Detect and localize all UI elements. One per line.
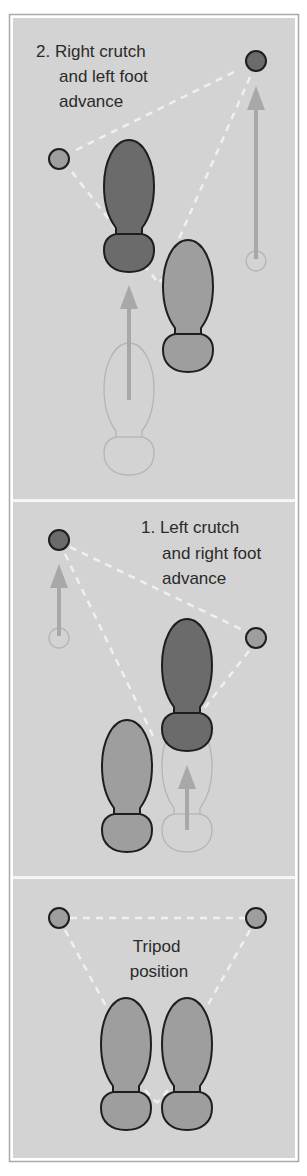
- panel-step-1: 1. Left crutch and right foot advance: [13, 502, 295, 876]
- crutch-gait-diagram: 2. Right crutch and left foot advance: [0, 0, 307, 1176]
- panel-step-2: 2. Right crutch and left foot advance: [13, 18, 295, 499]
- panel-divider: [13, 876, 295, 879]
- right-crutch: [246, 908, 266, 928]
- panel-divider: [13, 499, 295, 502]
- right-crutch-advanced: [246, 51, 266, 71]
- left-foot: [102, 720, 152, 852]
- panel-background: [13, 18, 295, 499]
- right-crutch: [246, 628, 266, 648]
- left-crutch: [49, 149, 69, 169]
- right-foot-advanced: [162, 619, 212, 751]
- left-foot: [101, 998, 151, 1130]
- left-crutch: [49, 908, 69, 928]
- left-foot-advanced: [104, 140, 154, 272]
- left-crutch-advanced: [49, 530, 69, 550]
- panel-tripod: Tripod position: [13, 879, 295, 1158]
- right-foot: [162, 998, 212, 1130]
- right-foot: [163, 240, 213, 372]
